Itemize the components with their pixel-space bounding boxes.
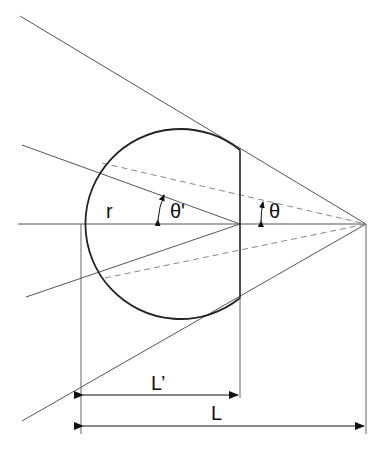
lower-refracted-ray [26, 224, 240, 297]
optics-diagram: r θ' θ L’ L [0, 0, 384, 450]
theta-prime-arc [158, 195, 164, 220]
upper-dashed-ray [102, 163, 366, 224]
l-prime-label: L’ [151, 372, 165, 394]
theta-prime-label: θ' [170, 200, 185, 222]
theta-label: θ [269, 200, 280, 222]
radius-label: r [106, 200, 113, 222]
upper-refracted-ray [22, 145, 240, 224]
lower-dashed-ray [105, 224, 366, 278]
lower-tangent-ray [22, 224, 366, 421]
upper-tangent-ray [20, 16, 366, 224]
theta-arc [261, 202, 263, 221]
l-label: L [211, 402, 222, 424]
